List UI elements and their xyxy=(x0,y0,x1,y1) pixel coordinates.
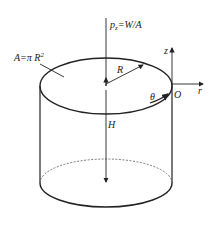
theta-label: θ xyxy=(150,91,155,102)
radius-label: R xyxy=(116,64,123,75)
z-axis-label: z xyxy=(163,45,168,56)
cylinder-diagram: pz=W/A A=π R2 R H θ O z r xyxy=(0,0,213,225)
pressure-label: pz=W/A xyxy=(109,19,143,32)
bottom-face-front xyxy=(40,183,172,207)
origin-label: O xyxy=(174,89,181,100)
radius-arrow xyxy=(106,65,143,84)
r-axis-label: r xyxy=(198,85,202,96)
height-label: H xyxy=(107,119,116,130)
area-label: A=π R2 xyxy=(13,51,44,63)
